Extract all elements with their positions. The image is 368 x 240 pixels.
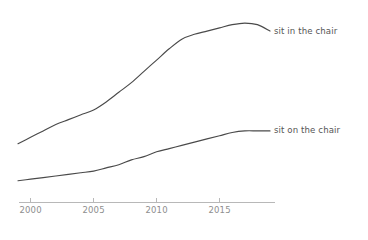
- series-label-sit-in-the-chair: sit in the chair: [274, 26, 338, 36]
- x-tick-label: 2005: [82, 205, 104, 215]
- series-group: [18, 23, 270, 181]
- series-line-sit-in-the-chair[interactable]: [18, 23, 270, 144]
- x-axis-tick-labels: 2000200520102015: [19, 205, 230, 215]
- series-line-sit-on-the-chair[interactable]: [18, 131, 270, 181]
- x-tick-label: 2000: [19, 205, 41, 215]
- x-tick-label: 2010: [145, 205, 167, 215]
- x-axis-tick-marks: [31, 198, 220, 202]
- x-axis: 2000200520102015: [19, 198, 275, 215]
- x-tick-label: 2015: [208, 205, 230, 215]
- series-label-group: sit in the chair sit on the chair: [274, 26, 341, 136]
- ngram-chart: sit in the chair sit on the chair 200020…: [0, 0, 368, 240]
- series-label-sit-on-the-chair: sit on the chair: [274, 125, 341, 135]
- chart-svg: sit in the chair sit on the chair 200020…: [0, 0, 368, 240]
